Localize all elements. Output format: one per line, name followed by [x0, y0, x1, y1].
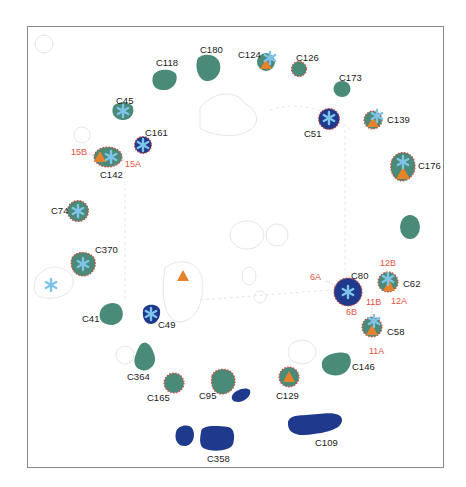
- site-11B: 11B: [366, 298, 381, 307]
- site-6A: 6A: [310, 273, 321, 282]
- label-C74: C74: [51, 206, 68, 216]
- label-C139: C139: [387, 115, 410, 125]
- cluster-C95[interactable]: [211, 369, 250, 402]
- cluster-C165[interactable]: [164, 373, 184, 393]
- site-12B: 12B: [380, 259, 396, 268]
- cluster-C80[interactable]: [334, 278, 362, 306]
- cluster-C58[interactable]: [362, 315, 382, 337]
- cluster-C161[interactable]: [135, 137, 152, 154]
- label-C129: C129: [276, 391, 299, 401]
- label-C146: C146: [352, 362, 375, 372]
- network-diagram: [0, 0, 466, 487]
- label-C58: C58: [387, 327, 404, 337]
- cluster-C109[interactable]: [288, 413, 342, 435]
- cluster-C358[interactable]: [175, 425, 234, 450]
- cluster-C180[interactable]: [196, 55, 220, 81]
- label-C124: C124: [238, 50, 261, 60]
- cluster-C370[interactable]: [71, 253, 95, 276]
- cluster-C62[interactable]: [378, 272, 398, 292]
- cluster-C129[interactable]: [279, 367, 299, 387]
- label-C180: C180: [200, 45, 223, 55]
- label-C51: C51: [304, 129, 321, 139]
- cluster-C173[interactable]: [334, 81, 351, 97]
- label-C62: C62: [403, 279, 420, 289]
- cluster-C118[interactable]: [152, 70, 176, 90]
- label-C358: C358: [207, 454, 230, 464]
- label-C126: C126: [296, 53, 319, 63]
- cluster-unlabeled[interactable]: [400, 215, 420, 239]
- label-C80: C80: [351, 271, 368, 281]
- label-C161: C161: [145, 128, 168, 138]
- cluster-C176[interactable]: [391, 153, 415, 182]
- label-C95: C95: [199, 391, 216, 401]
- label-C41: C41: [82, 314, 99, 324]
- site-15A: 15A: [125, 160, 141, 169]
- label-C109: C109: [315, 438, 338, 448]
- site-11A: 11A: [369, 347, 384, 356]
- site-6B: 6B: [346, 308, 357, 317]
- label-C118: C118: [156, 58, 178, 68]
- label-C45: C45: [116, 96, 133, 106]
- cluster-C74[interactable]: [68, 201, 89, 222]
- label-C370: C370: [95, 245, 118, 255]
- label-C49: C49: [158, 320, 175, 330]
- cluster-C41[interactable]: [100, 303, 123, 325]
- ghost-triangle-icon: [177, 270, 189, 281]
- site-12A: 12A: [391, 297, 407, 306]
- site-15B: 15B: [71, 148, 87, 157]
- label-C173: C173: [339, 73, 362, 83]
- label-C165: C165: [147, 393, 170, 403]
- cluster-C142[interactable]: [94, 147, 122, 167]
- cluster-C364[interactable]: [134, 342, 155, 370]
- cluster-C146[interactable]: [322, 352, 351, 375]
- ghost-asterisk-icon: [46, 279, 56, 291]
- cluster-C139[interactable]: [364, 110, 382, 129]
- cluster-C126[interactable]: [292, 62, 307, 77]
- label-C364: C364: [127, 372, 150, 382]
- label-C176: C176: [418, 161, 441, 171]
- label-C142: C142: [100, 170, 123, 180]
- cluster-C51[interactable]: [319, 109, 340, 130]
